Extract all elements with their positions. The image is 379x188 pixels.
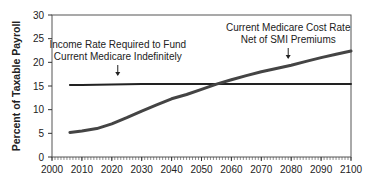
medicare-cost-chart: 0510152025302000201020202030204020502060… bbox=[0, 0, 379, 188]
arrow-head-icon bbox=[115, 72, 120, 76]
x-tick-label: 2000 bbox=[41, 164, 64, 175]
arrow-head-icon bbox=[286, 55, 291, 59]
x-tick-label: 2060 bbox=[220, 164, 243, 175]
y-tick-label: 5 bbox=[38, 128, 44, 139]
y-tick-label: 30 bbox=[33, 10, 45, 21]
x-tick-label: 2010 bbox=[71, 164, 94, 175]
chart-series bbox=[70, 51, 351, 132]
x-tick-label: 2030 bbox=[131, 164, 154, 175]
chart-annotations: Income Rate Required to FundCurrent Medi… bbox=[49, 22, 350, 76]
y-tick-label: 10 bbox=[33, 104, 45, 115]
y-tick-label: 15 bbox=[33, 81, 45, 92]
x-tick-label: 2100 bbox=[340, 164, 363, 175]
annotation-text-1: Current Medicare Indefinitely bbox=[54, 51, 182, 62]
x-tick-label: 2080 bbox=[280, 164, 303, 175]
annotation-text-2: Net of SMI Premiums bbox=[241, 34, 336, 45]
y-tick-label: 0 bbox=[38, 152, 44, 163]
x-tick-label: 2040 bbox=[160, 164, 183, 175]
y-tick-label: 25 bbox=[33, 33, 45, 44]
chart-canvas: 0510152025302000201020202030204020502060… bbox=[0, 0, 379, 188]
series-line-2 bbox=[70, 51, 351, 132]
x-tick-label: 2050 bbox=[190, 164, 213, 175]
x-tick-label: 2070 bbox=[250, 164, 273, 175]
annotation-text-1: Income Rate Required to Fund bbox=[49, 39, 186, 50]
annotation-text-2: Current Medicare Cost Rate bbox=[226, 22, 351, 33]
x-tick-label: 2090 bbox=[310, 164, 333, 175]
x-tick-label: 2020 bbox=[101, 164, 124, 175]
y-tick-label: 20 bbox=[33, 57, 45, 68]
y-axis-label: Percent of Taxable Payroll bbox=[10, 21, 22, 152]
